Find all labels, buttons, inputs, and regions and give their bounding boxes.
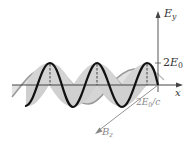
ey-axis-label: Ey	[164, 8, 176, 21]
em-wave-diagram	[0, 0, 189, 147]
bz-axis-label: Bz	[102, 127, 113, 139]
ey-axis-arrow-icon	[156, 11, 161, 18]
e-amplitude-label: 2E0	[163, 57, 183, 70]
b-amplitude-label: 2E0/c	[136, 98, 160, 108]
x-axis-label: x	[175, 88, 181, 98]
